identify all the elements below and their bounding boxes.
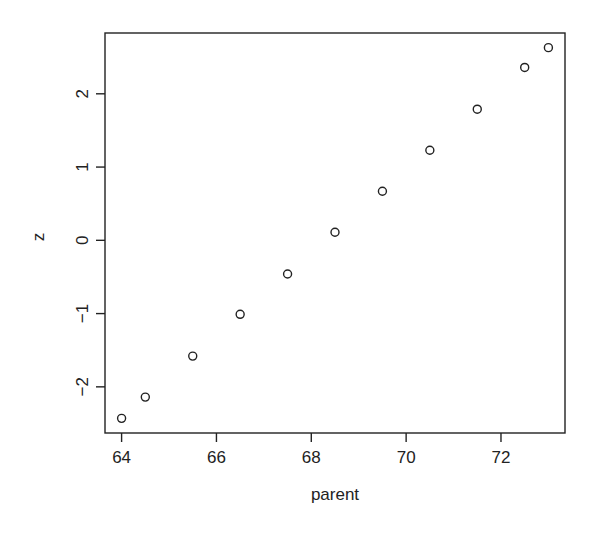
x-axis-title: parent bbox=[311, 485, 359, 504]
y-axis: −2−1012 bbox=[73, 89, 105, 396]
x-axis: 6466687072 bbox=[112, 433, 510, 467]
x-tick-label: 70 bbox=[397, 448, 416, 467]
data-point bbox=[426, 146, 434, 154]
data-point bbox=[118, 414, 126, 422]
data-point bbox=[141, 393, 149, 401]
y-tick-label: −2 bbox=[73, 377, 92, 396]
x-tick-label: 68 bbox=[302, 448, 321, 467]
y-tick-label: 2 bbox=[73, 89, 92, 98]
data-point bbox=[473, 105, 481, 113]
plot-frame bbox=[105, 33, 565, 433]
x-tick-label: 64 bbox=[112, 448, 131, 467]
y-tick-label: 0 bbox=[73, 236, 92, 245]
data-point bbox=[521, 63, 529, 71]
data-point bbox=[189, 352, 197, 360]
data-point bbox=[331, 228, 339, 236]
y-axis-title: z bbox=[29, 233, 48, 242]
scatter-plot: 6466687072 −2−1012 parent z bbox=[0, 0, 594, 533]
y-tick-label: 1 bbox=[73, 162, 92, 171]
data-point bbox=[284, 270, 292, 278]
x-tick-label: 66 bbox=[207, 448, 226, 467]
x-tick-label: 72 bbox=[492, 448, 511, 467]
data-point bbox=[236, 310, 244, 318]
data-points bbox=[118, 44, 553, 423]
data-point bbox=[378, 187, 386, 195]
y-tick-label: −1 bbox=[73, 304, 92, 323]
data-point bbox=[544, 44, 552, 52]
